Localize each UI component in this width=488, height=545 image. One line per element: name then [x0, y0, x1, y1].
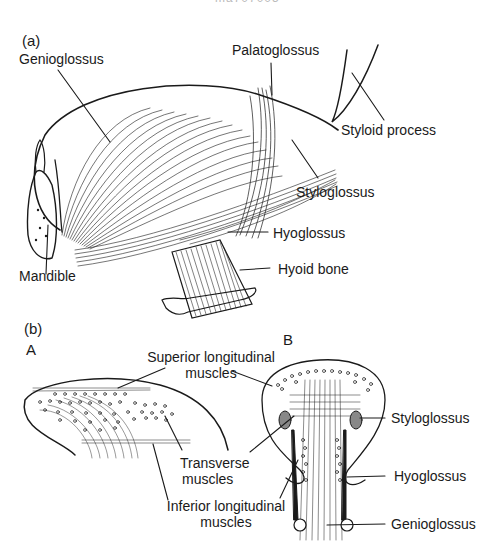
sub-panel-a-tag: A: [26, 341, 36, 358]
transverse-fibers: [40, 396, 138, 458]
superior-longitudinal-dots-b: [277, 370, 373, 392]
tongue-outline: [34, 85, 338, 230]
label-genioglossus-b: Genioglossus: [391, 516, 476, 532]
label-styloglossus-a: Styloglossus: [296, 184, 375, 200]
panel-a-tag: (a): [22, 32, 40, 49]
label-palatoglossus: Palatoglossus: [232, 42, 319, 58]
hyoglossus-fibers: [176, 242, 246, 316]
label-hyoglossus-b: Hyoglossus: [394, 468, 466, 484]
styloglossus-section-right: [350, 411, 362, 429]
vertical-fibers: [290, 380, 360, 540]
transverse-dots: [39, 393, 174, 432]
label-mandible: Mandible: [19, 268, 76, 284]
label-inferior-longitudinal: Inferior longitudinal muscles: [156, 498, 296, 530]
label-transverse-muscles: Transverse muscles: [180, 455, 250, 487]
panel-b-tag: (b): [24, 320, 42, 337]
inferior-longitudinal-fibers: [82, 440, 190, 443]
label-hyoid-bone: Hyoid bone: [278, 261, 349, 277]
hyoglossus-right: [342, 430, 346, 520]
label-styloid-process: Styloid process: [341, 122, 436, 138]
label-hyoglossus-a: Hyoglossus: [273, 225, 345, 241]
palatoglossus-fibers: [236, 86, 275, 238]
hyoid-bone: [162, 288, 256, 314]
label-styloglossus-b: Styloglossus: [391, 410, 470, 426]
superior-longitudinal-fibers: [33, 388, 150, 391]
sub-panel-b-tag: B: [283, 331, 293, 348]
label-genioglossus-a: Genioglossus: [19, 51, 104, 67]
leader-lines-a: [46, 63, 384, 274]
styloid-process: [332, 45, 378, 122]
label-superior-longitudinal: Superior longitudinal muscles: [146, 349, 276, 381]
mandible: [27, 171, 56, 259]
